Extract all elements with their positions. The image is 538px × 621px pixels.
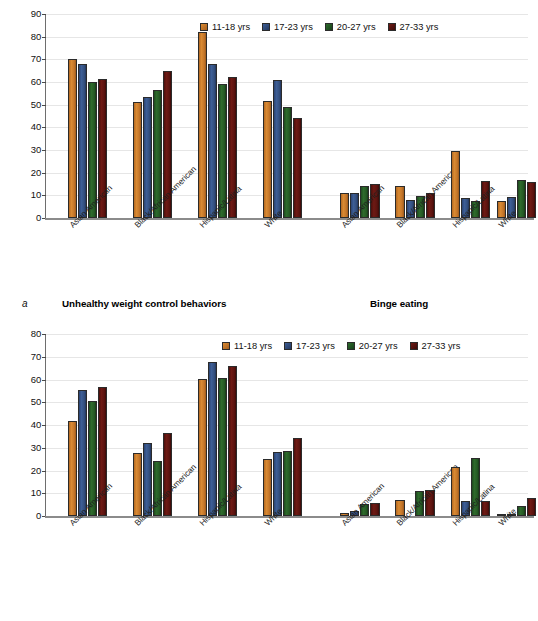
bar-group: White (497, 14, 537, 218)
y-axis-tick-label: 10 (31, 191, 41, 201)
bar-group: Black/African American (133, 14, 173, 218)
bar-group: White (497, 334, 537, 516)
bar-17-23-yrs (273, 80, 282, 218)
bar-11-18-yrs (263, 459, 272, 516)
y-axis-tick-label: 0 (36, 511, 41, 521)
bar-27-33-yrs (293, 438, 302, 516)
plot-area-panel-b: 01020304050607080 Asian AmericanBlack/Af… (46, 334, 528, 516)
caption-unhealthy-weight-control-a: Unhealthy weight control behaviors (62, 298, 226, 309)
bar-17-23-yrs (208, 362, 217, 516)
bar-group: Asian American (340, 14, 380, 218)
bar-20-27-yrs (517, 506, 526, 516)
bar-group: Hispanic/Latina (198, 334, 238, 516)
panel-a: 11-18 yrs17-23 yrs20-27 yrs27-33 yrs 010… (0, 0, 538, 320)
bar-11-18-yrs (198, 32, 207, 218)
bar-group: Hispanic/Latina (198, 14, 238, 218)
y-axis-tick-label: 50 (31, 100, 41, 110)
bar-20-27-yrs (283, 451, 292, 516)
panel-b: 11-18 yrs17-23 yrs20-27 yrs27-33 yrs 010… (0, 320, 538, 621)
bar-group: Black/African American (133, 334, 173, 516)
bar-27-33-yrs (370, 503, 379, 516)
figure-container: 11-18 yrs17-23 yrs20-27 yrs27-33 yrs 010… (0, 0, 538, 621)
bar-17-23-yrs (78, 390, 87, 516)
bar-cluster (263, 334, 303, 516)
bar-11-18-yrs (451, 151, 460, 218)
y-axis-tick-label: 10 (31, 489, 41, 499)
bar-group: Asian American (68, 14, 108, 218)
bar-11-18-yrs (68, 421, 77, 516)
bar-20-27-yrs (517, 180, 526, 218)
y-axis-tick-label: 20 (31, 466, 41, 476)
bar-cluster (497, 334, 537, 516)
bar-27-33-yrs (527, 182, 536, 218)
y-axis-tick-label: 60 (31, 77, 41, 87)
bar-27-33-yrs (293, 118, 302, 218)
y-axis-tick-label: 30 (31, 145, 41, 155)
plot-area-panel-a: 0102030405060708090 Asian AmericanBlack/… (46, 14, 528, 218)
bar-groups-panel-a: Asian AmericanBlack/African AmericanHisp… (46, 14, 528, 218)
bar-11-18-yrs (198, 379, 207, 516)
y-axis-tick-label: 20 (31, 168, 41, 178)
bar-11-18-yrs (133, 453, 142, 516)
caption-binge-eating-a: Binge eating (370, 298, 428, 309)
bar-11-18-yrs (451, 467, 460, 516)
bar-group: Hispanic/Latina (451, 14, 491, 218)
y-axis-tick-label: 70 (31, 352, 41, 362)
bar-11-18-yrs (68, 59, 77, 218)
bar-17-23-yrs (78, 64, 87, 218)
bar-group: Black/African American (395, 334, 435, 516)
bar-27-33-yrs (527, 498, 536, 516)
y-axis-tick-label: 70 (31, 55, 41, 65)
bar-group: White (263, 14, 303, 218)
bar-group: Asian American (340, 334, 380, 516)
bar-group: Asian American (68, 334, 108, 516)
bar-27-33-yrs (481, 501, 490, 516)
bar-17-23-yrs (143, 97, 152, 218)
bar-group: Black/African American (395, 14, 435, 218)
y-axis-tick-label: 0 (36, 213, 41, 223)
bar-cluster (263, 14, 303, 218)
bar-20-27-yrs (283, 107, 292, 218)
y-axis-tick-label: 40 (31, 123, 41, 133)
bar-11-18-yrs (263, 101, 272, 218)
bar-cluster (497, 14, 537, 218)
y-axis-tick-label: 60 (31, 375, 41, 385)
panel-letter-a: a (22, 298, 28, 309)
bar-17-23-yrs (208, 64, 217, 218)
bar-group: Hispanic/Latina (451, 334, 491, 516)
bar-groups-panel-b: Asian AmericanBlack/African AmericanHisp… (46, 334, 528, 516)
y-axis-tick-label: 80 (31, 32, 41, 42)
y-axis-tick-label: 50 (31, 398, 41, 408)
bar-group: White (263, 334, 303, 516)
y-axis-tick-label: 30 (31, 443, 41, 453)
bar-27-33-yrs (163, 433, 172, 516)
y-axis-tick-label: 90 (31, 9, 41, 19)
y-axis-tick-label: 40 (31, 420, 41, 430)
bar-11-18-yrs (133, 102, 142, 218)
y-axis-tick-label: 80 (31, 329, 41, 339)
